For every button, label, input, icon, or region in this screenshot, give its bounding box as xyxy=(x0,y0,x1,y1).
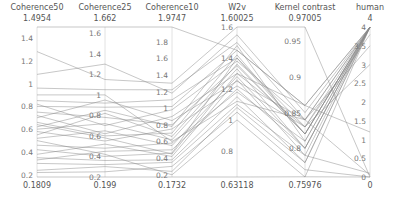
axis-title: Coherence25 xyxy=(78,3,131,12)
axis-max-label: 1.4954 xyxy=(23,14,51,23)
axis-tick-label: 0.95 xyxy=(284,37,301,46)
data-line[interactable] xyxy=(37,35,370,127)
axis-tick-label: 0.8 xyxy=(289,144,301,153)
axis-title: human xyxy=(356,3,384,12)
axis-title: W2v xyxy=(228,3,246,12)
axis-tick-label: 0.9 xyxy=(289,73,301,82)
axis-tick-label: 1.6 xyxy=(221,23,233,32)
data-line[interactable] xyxy=(37,27,370,106)
axis-tick-label: 0.6 xyxy=(21,125,33,134)
axis-max-label: 0.97005 xyxy=(288,14,321,23)
axis-max-label: 1.662 xyxy=(94,14,117,23)
axis-tick-label: 0.6 xyxy=(156,137,168,146)
axis-title: Kernel contrast xyxy=(275,3,336,12)
axis-tick-label: 1 xyxy=(228,116,233,125)
axis-max-label: 1.60025 xyxy=(220,14,253,23)
axis-tick-label: 0.2 xyxy=(89,173,101,182)
axis-tick-label: 1.2 xyxy=(156,88,168,97)
data-line[interactable] xyxy=(37,27,370,156)
axis-tick-label: 0.8 xyxy=(221,147,233,156)
axis-tick-label: 0.8 xyxy=(21,102,33,111)
axis-tick-label: 1.4 xyxy=(89,50,101,59)
axis-tick-label: 1.5 xyxy=(354,117,366,126)
axis-min-label: 0.1732 xyxy=(158,181,186,190)
axis-tick-label: 0 xyxy=(361,173,366,182)
axis-tick-label: 0.5 xyxy=(354,154,366,163)
axis-tick-label: 1 xyxy=(163,104,168,113)
axis-tick-label: 1.6 xyxy=(156,54,168,63)
data-lines xyxy=(37,27,370,177)
data-line[interactable] xyxy=(37,27,370,141)
axis-min-label: 0.199 xyxy=(94,181,117,190)
axis-tick-label: 1.4 xyxy=(21,34,33,43)
axis-title: Coherence10 xyxy=(145,3,198,12)
axis-tick-label: 3.5 xyxy=(354,42,366,51)
data-line[interactable] xyxy=(37,27,370,171)
axis-tick-label: 0.4 xyxy=(89,152,101,161)
axis-tick-label: 0.6 xyxy=(89,132,101,141)
axis-tick-label: 1.4 xyxy=(221,54,233,63)
axis-tick-label: 1.2 xyxy=(89,70,101,79)
axis-tick-label: 0.4 xyxy=(21,148,33,157)
axis-tick-label: 1.8 xyxy=(156,38,168,47)
axis-tick-label: 1.6 xyxy=(89,29,101,38)
axis-min-label: 0 xyxy=(367,181,372,190)
axis-tick-label: 0.4 xyxy=(156,154,168,163)
axis-tick-label: 1 xyxy=(96,91,101,100)
axis-tick-label: 0.8 xyxy=(156,121,168,130)
axis-tick-label: 1.2 xyxy=(21,57,33,66)
axis-max-label: 4 xyxy=(367,14,372,23)
axis-tick-label: 1.2 xyxy=(221,85,233,94)
axis-min-label: 0.63118 xyxy=(220,181,253,190)
axis-tick-label: 2.5 xyxy=(354,79,366,88)
axis-tick-label: 3 xyxy=(361,61,366,70)
axis-tick-label: 1 xyxy=(361,136,366,145)
axis-min-label: 0.1809 xyxy=(23,181,51,190)
axis-tick-label: 1.4 xyxy=(156,71,168,80)
data-line[interactable] xyxy=(37,27,370,134)
parallel-coordinates-chart: Coherence501.49540.18090.20.40.60.811.21… xyxy=(0,0,395,200)
axis-max-label: 1.9747 xyxy=(158,14,186,23)
axis-title: Coherence50 xyxy=(10,3,63,12)
data-line[interactable] xyxy=(37,27,370,113)
axis-tick-label: 0.2 xyxy=(156,171,168,180)
axis-tick-label: 0.2 xyxy=(21,171,33,180)
axis-tick-label: 1 xyxy=(28,80,33,89)
axis-min-label: 0.75976 xyxy=(288,181,321,190)
axis-tick-label: 0.85 xyxy=(284,109,301,118)
data-line[interactable] xyxy=(37,27,370,126)
axis-tick-label: 4 xyxy=(361,23,366,32)
axis-tick-label: 0.8 xyxy=(89,111,101,120)
axis-tick-label: 2 xyxy=(361,98,366,107)
